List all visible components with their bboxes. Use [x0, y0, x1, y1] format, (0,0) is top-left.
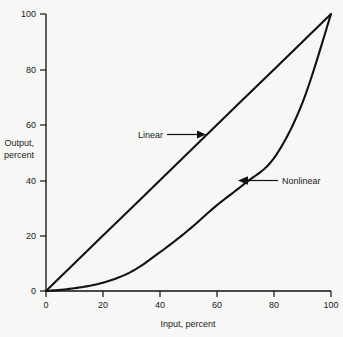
y-tick-label-60: 60 — [26, 120, 36, 130]
annotation-nonlinear: Nonlinear — [238, 176, 321, 186]
y-tick-label-20: 20 — [26, 231, 36, 241]
chart-figure: 0 20 40 60 80 100 0 20 40 60 80 100 Inpu… — [0, 0, 343, 337]
annotation-label-linear: Linear — [138, 130, 163, 140]
x-tick-label-100: 100 — [323, 300, 338, 310]
y-tick-label-0: 0 — [31, 286, 36, 296]
y-axis-title-line2: percent — [4, 150, 35, 160]
line-chart: 0 20 40 60 80 100 0 20 40 60 80 100 Inpu… — [0, 0, 343, 337]
x-tick-label-0: 0 — [43, 300, 48, 310]
series-line-linear — [46, 14, 331, 291]
x-tick-label-40: 40 — [155, 300, 165, 310]
x-tick-label-80: 80 — [269, 300, 279, 310]
y-tick-label-80: 80 — [26, 65, 36, 75]
y-tick-label-100: 100 — [21, 9, 36, 19]
annotation-label-nonlinear: Nonlinear — [282, 176, 321, 186]
x-tick-label-20: 20 — [98, 300, 108, 310]
y-axis-title-line1: Output, — [4, 138, 34, 148]
x-tick-label-60: 60 — [212, 300, 222, 310]
y-tick-label-40: 40 — [26, 176, 36, 186]
x-axis-title: Input, percent — [160, 319, 216, 329]
annotation-linear: Linear — [138, 130, 206, 140]
arrow-left-icon — [238, 176, 248, 184]
